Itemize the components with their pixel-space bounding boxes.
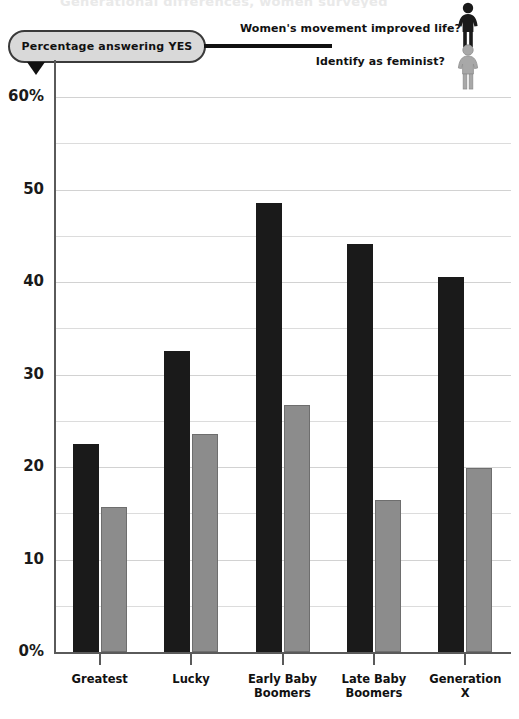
legend-item-womens-movement: Women's movement improved life?: [240, 22, 445, 35]
x-tick: [282, 652, 284, 665]
legend-item-identify-as-feminist: Identify as feminist?: [240, 55, 445, 68]
bar-dark: [164, 351, 190, 652]
x-tick: [190, 652, 192, 665]
bar-light: [375, 500, 401, 652]
y-tick-label: 50: [0, 180, 44, 198]
y-tick-label: 40: [0, 272, 44, 290]
callout-connector-line: [204, 44, 332, 48]
woman-figure-icon-light: [455, 44, 481, 94]
cut-off-title: Generational differences, women surveyed: [60, 0, 460, 8]
legend-label-womens-movement: Women's movement improved life?: [240, 22, 445, 35]
bar-dark: [73, 444, 99, 652]
bar-light: [101, 507, 127, 652]
callout-label: Percentage answering YES: [22, 40, 193, 53]
chart-root: Generational differences, women surveyed…: [0, 0, 519, 719]
bar-light: [466, 468, 492, 652]
bar-dark: [438, 277, 464, 652]
callout-percentage-answering-yes: Percentage answering YES: [8, 30, 206, 63]
y-tick-label: 20: [0, 457, 44, 475]
bars-layer: [54, 97, 511, 652]
x-tick: [99, 652, 101, 665]
y-tick-label: 30: [0, 365, 44, 383]
x-tick-label-line: Generation: [405, 672, 519, 686]
bar-light: [192, 434, 218, 652]
y-tick-label: 0%: [0, 642, 44, 660]
x-tick-label: GenerationX: [405, 672, 519, 700]
y-tick-label: 10: [0, 550, 44, 568]
bar-dark: [256, 203, 282, 652]
callout-pointer-triangle-icon: [27, 62, 45, 75]
x-tick: [373, 652, 375, 665]
bar-dark: [347, 244, 373, 652]
x-tick-label-line: X: [405, 686, 519, 700]
legend-label-identify-as-feminist: Identify as feminist?: [240, 55, 445, 68]
y-tick-label: 60%: [0, 87, 44, 105]
x-tick: [464, 652, 466, 665]
bar-light: [284, 405, 310, 652]
